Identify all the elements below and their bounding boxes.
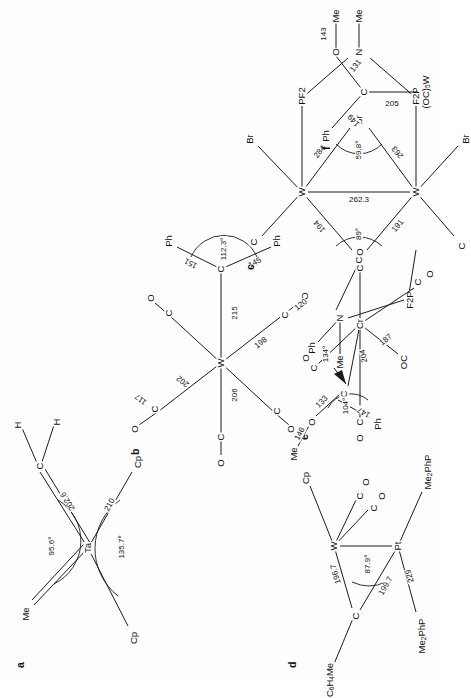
atom-ph: Ph — [373, 417, 383, 431]
angle-ph-c-ph: 112.3° — [220, 237, 228, 262]
atom-co-c-3: C — [309, 364, 319, 373]
atom-co-o-3: O — [146, 293, 156, 302]
atom-co-c-5: C — [280, 311, 290, 320]
atom-cr: Cr — [355, 318, 365, 330]
atom-w: W — [216, 358, 226, 369]
distance-6: 215 — [231, 305, 239, 320]
atom-br-terminal-2: Br — [461, 133, 471, 145]
distance-3: 206 — [231, 387, 239, 402]
atom-me: Me — [21, 606, 31, 621]
angle-w-c-w: 89° — [355, 227, 363, 241]
distance-o-me: 143 — [320, 26, 328, 41]
atom-co-c-1: C — [355, 418, 365, 427]
atom-co-c-2: C — [369, 504, 379, 513]
atom-cp: Cp — [301, 471, 311, 485]
atom-w: W — [329, 541, 339, 552]
atom-co-c-1: C — [216, 433, 226, 442]
atom-ph-1: Ph — [164, 234, 174, 248]
atom-co-c-4: C — [272, 407, 282, 416]
atom-co-c-3: C — [164, 309, 174, 318]
atom-carbene-c: C — [216, 265, 226, 274]
atom-cp-1: Cp — [129, 631, 139, 645]
structure-b: W C O C O C O C O C O C Ph Ph 117 202 20… — [125, 245, 315, 455]
atom-co-c-1: C — [355, 492, 365, 501]
atom-w-1: W — [297, 187, 307, 198]
atom-me: Me — [331, 8, 341, 23]
atom-cp-2: Cp — [133, 455, 143, 469]
structure-e: Cr C O Me Ph C O C O C O OC C O 204 187 … — [294, 268, 430, 440]
atom-ta: Ta — [83, 542, 93, 554]
atom-o: O — [307, 417, 317, 426]
atom-me: Me — [289, 446, 299, 461]
atom-carbene-c: C — [35, 462, 45, 471]
atom-co-o-1: O — [216, 458, 226, 467]
atom-pt: Pt — [393, 541, 403, 552]
angle-o-c-ph: 104° — [342, 397, 350, 416]
structure-a: Ta Cp Cp Me C H H 210 202.6 135.7° 95.6°… — [10, 422, 150, 668]
atom-tolyl: C6H4Me — [325, 662, 336, 698]
atom-co-4: OC — [399, 354, 409, 370]
structure-f: C (OC)5W Ph O Me 205 149 131 143 f — [316, 20, 426, 150]
atom-bridging-carbene: C — [351, 612, 361, 621]
atom-co-o-2: O — [130, 424, 140, 433]
atom-co-o-1: O — [361, 477, 371, 486]
structure-f-bonds — [316, 20, 426, 150]
atom-co-o-1: O — [355, 433, 365, 442]
angle-cr-c: 134° — [322, 345, 330, 364]
atom-co-o-3: O — [301, 353, 311, 362]
atom-o: O — [331, 47, 341, 56]
angle-me-ta-c: 95.6° — [48, 536, 56, 557]
atom-phosphine-1: Me2PhP — [417, 618, 428, 655]
atom-co-c-5: C — [413, 278, 423, 287]
distance-w-w: 262.3 — [348, 196, 370, 204]
atom-metal-fragment: (OC)5W — [421, 74, 432, 109]
structure-d: W Pt C C6H4Me Cp C O C O Me2PhP Me2PhP 1… — [282, 468, 430, 668]
atom-br-terminal-1: Br — [245, 133, 255, 145]
atom-ph: Ph — [321, 129, 331, 143]
distance-w-c: 205 — [384, 100, 399, 108]
atom-phosphine-2: Me2PhP — [423, 454, 434, 491]
atom-co-c-2: C — [457, 242, 467, 251]
atom-h-1: H — [13, 421, 23, 430]
atom-co-o-2: O — [377, 491, 387, 500]
atom-w-2: W — [411, 187, 421, 198]
atom-co-o-2: O — [355, 247, 365, 256]
angle-cp-ta-cp: 135.7° — [118, 534, 126, 559]
atom-co-c-2: C — [150, 405, 160, 414]
atom-carbene-c: C — [359, 88, 369, 97]
atom-co-o-5: O — [425, 269, 435, 278]
atom-co-c-2: C — [355, 264, 365, 273]
atom-co-c-1: C — [249, 238, 259, 247]
atom-h-2: H — [52, 418, 62, 427]
atom-pf2-1: PF2 — [297, 86, 307, 105]
angle-w-c-pt: 87.9° — [364, 554, 372, 575]
